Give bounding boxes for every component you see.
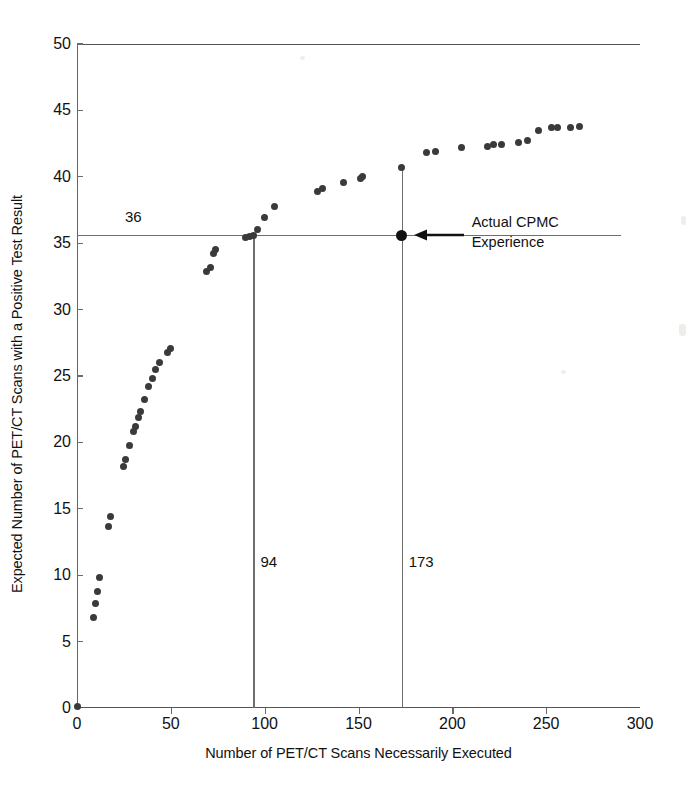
- y-tick-label: 30: [53, 301, 77, 319]
- vertical-guide-line: [402, 168, 403, 708]
- data-point: [145, 383, 152, 390]
- data-point: [126, 442, 133, 449]
- y-tick-mark: [77, 641, 83, 642]
- y-tick-label: 15: [53, 500, 77, 518]
- vertical-guide-label: 94: [260, 553, 277, 570]
- data-point: [271, 203, 278, 210]
- y-tick-label: 45: [53, 101, 77, 119]
- y-tick-mark: [77, 575, 83, 576]
- y-tick-mark: [77, 110, 83, 111]
- y-tick-label: 50: [53, 35, 77, 53]
- annotation-line-2: Experience: [472, 233, 559, 253]
- scan-artifact: [679, 324, 686, 336]
- x-tick-label: 0: [73, 708, 82, 733]
- y-tick-label: 20: [53, 433, 77, 451]
- y-tick-label: 40: [53, 168, 77, 186]
- vertical-guide-line: [253, 235, 254, 708]
- y-tick-label: 25: [53, 367, 77, 385]
- vertical-guide-label: 173: [409, 553, 434, 570]
- y-tick-mark: [77, 508, 83, 509]
- y-tick-mark: [77, 375, 83, 376]
- data-point: [74, 703, 81, 710]
- data-point: [94, 588, 101, 595]
- scan-artifact: [681, 216, 686, 225]
- x-tick-label: 300: [627, 708, 654, 733]
- cpmc-experience-marker: [396, 230, 407, 241]
- x-tick-mark: [265, 708, 266, 714]
- y-tick-label: 10: [53, 566, 77, 584]
- data-point: [515, 139, 522, 146]
- y-axis-title: Expected Number of PET/CT Scans with a P…: [0, 0, 34, 788]
- y-tick-mark: [77, 442, 83, 443]
- y-tick-label: 5: [62, 633, 77, 651]
- data-point: [92, 600, 99, 607]
- x-tick-mark: [546, 708, 547, 714]
- cpmc-experience-annotation: Actual CPMCExperience: [472, 213, 559, 252]
- data-point: [167, 345, 174, 352]
- x-tick-mark: [171, 708, 172, 714]
- x-tick-mark: [359, 708, 360, 714]
- y-tick-mark: [77, 309, 83, 310]
- plot-area: 05101520253035404550 050100150200250300 …: [77, 44, 640, 708]
- annotation-line-1: Actual CPMC: [472, 213, 559, 233]
- y-tick-mark: [77, 43, 83, 44]
- y-tick-mark: [77, 243, 83, 244]
- y-tick-label: 35: [53, 234, 77, 252]
- data-point: [535, 127, 542, 134]
- data-point: [423, 149, 430, 156]
- plot-frame: [77, 44, 640, 708]
- horizontal-guide-label: 36: [125, 208, 142, 225]
- scatter-chart-figure: Expected Number of PET/CT Scans with a P…: [0, 0, 695, 788]
- data-point: [105, 523, 112, 530]
- data-point: [432, 148, 439, 155]
- data-point: [340, 179, 347, 186]
- left-arrow-icon: [412, 227, 466, 247]
- data-point: [149, 375, 156, 382]
- y-tick-mark: [77, 176, 83, 177]
- data-point: [132, 423, 139, 430]
- x-axis-title: Number of PET/CT Scans Necessarily Execu…: [77, 745, 640, 761]
- x-tick-mark: [452, 708, 453, 714]
- data-point: [207, 264, 214, 271]
